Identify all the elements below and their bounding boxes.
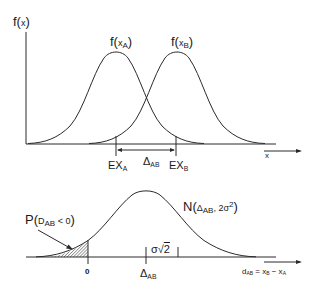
bottom-x-arrow <box>264 260 302 264</box>
top-x-arrow <box>264 149 302 153</box>
delta-tick-label: ΔAB <box>140 268 156 281</box>
top-panel <box>26 32 302 156</box>
curve-a-label: f(xA) <box>110 35 132 50</box>
delta-label: ΔAB <box>143 156 159 169</box>
zero-tick-label: 0 <box>85 268 89 276</box>
delta-arrow <box>117 148 175 152</box>
curve-b <box>89 52 265 144</box>
probability-label: P(DAB < 0) <box>25 213 75 228</box>
normal-distribution-diagram: f(x) f(xA) f(xB) ΔAB EXA EXB x N(ΔAB, 2σ… <box>0 0 316 297</box>
sigma-root-label: σ√2 <box>151 244 170 255</box>
marker-b-label: EXB <box>169 160 188 173</box>
y-axis-label: f(x) <box>13 15 30 28</box>
top-x-axis-label: x <box>265 152 269 160</box>
curve-b-label: f(xB) <box>171 35 193 50</box>
distribution-label: N(ΔAB, 2σ2) <box>183 200 238 215</box>
curve-a <box>28 52 204 144</box>
bottom-x-axis-label: dAB = xB − xA <box>242 268 286 277</box>
probability-pointer-arrow <box>38 230 73 250</box>
marker-a-label: EXA <box>108 160 127 173</box>
